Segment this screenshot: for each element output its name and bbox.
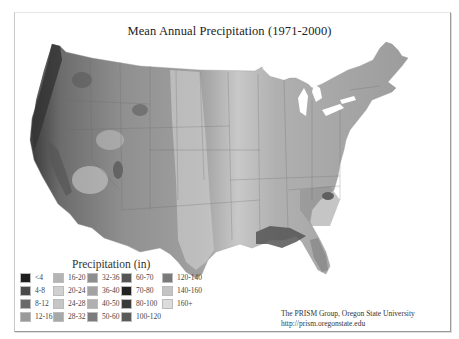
legend-label: 4-8 xyxy=(35,286,45,295)
legend-item: 28-32 xyxy=(53,311,86,322)
legend-swatch xyxy=(53,312,64,322)
legend-swatch xyxy=(121,286,132,296)
legend-item: 20-24 xyxy=(53,285,86,296)
legend-item: 16-20 xyxy=(53,272,86,283)
legend-swatch xyxy=(121,299,132,309)
legend-label: 80-100 xyxy=(136,299,157,308)
legend-item: 100-120 xyxy=(121,311,161,322)
legend-label: <4 xyxy=(35,273,43,282)
legend-swatch xyxy=(20,273,31,283)
legend-item: 70-80 xyxy=(121,285,154,296)
legend-swatch xyxy=(53,299,64,309)
legend-label: 140-160 xyxy=(177,286,202,295)
legend-item: 60-70 xyxy=(121,272,154,283)
legend-item: 80-100 xyxy=(121,298,157,309)
legend-label: 16-20 xyxy=(68,273,86,282)
legend-title: Precipitation (in) xyxy=(72,258,150,270)
legend-swatch xyxy=(53,273,64,283)
credit-url: http://prism.oregonstate.edu xyxy=(281,319,415,329)
legend-label: 24-28 xyxy=(68,299,86,308)
legend-swatch xyxy=(121,312,132,322)
legend-item: 36-40 xyxy=(87,285,120,296)
legend-swatch xyxy=(87,286,98,296)
legend-swatch xyxy=(87,273,98,283)
legend-swatch xyxy=(162,299,173,309)
legend-label: 70-80 xyxy=(136,286,154,295)
legend-item: 140-160 xyxy=(162,285,202,296)
legend-item: 50-60 xyxy=(87,311,120,322)
legend-label: 32-36 xyxy=(102,273,120,282)
legend-item: 4-8 xyxy=(20,285,45,296)
legend-swatch xyxy=(162,286,173,296)
legend-swatch xyxy=(162,273,173,283)
legend-label: 8-12 xyxy=(35,299,49,308)
legend-item: 24-28 xyxy=(53,298,86,309)
legend-label: 20-24 xyxy=(68,286,86,295)
credit-org: The PRISM Group, Oregon State University xyxy=(281,309,415,319)
legend-label: 36-40 xyxy=(102,286,120,295)
legend-label: 28-32 xyxy=(68,312,86,321)
legend-swatch xyxy=(121,273,132,283)
legend-label: 40-50 xyxy=(102,299,120,308)
legend-item: 40-50 xyxy=(87,298,120,309)
legend-item: 160+ xyxy=(162,298,192,309)
legend-swatch xyxy=(20,299,31,309)
legend-label: 50-60 xyxy=(102,312,120,321)
legend-item: 32-36 xyxy=(87,272,120,283)
legend-swatch xyxy=(87,299,98,309)
legend-swatch xyxy=(87,312,98,322)
legend-label: 160+ xyxy=(177,299,192,308)
legend-item: 120-140 xyxy=(162,272,202,283)
legend-item: 12-16 xyxy=(20,311,53,322)
legend-label: 60-70 xyxy=(136,273,154,282)
legend-swatch xyxy=(20,312,31,322)
legend-label: 120-140 xyxy=(177,273,202,282)
legend-label: 12-16 xyxy=(35,312,53,321)
legend-item: <4 xyxy=(20,272,43,283)
credit-block: The PRISM Group, Oregon State University… xyxy=(281,309,415,328)
legend-item: 8-12 xyxy=(20,298,49,309)
legend-swatch xyxy=(20,286,31,296)
legend-swatch xyxy=(53,286,64,296)
legend-label: 100-120 xyxy=(136,312,161,321)
